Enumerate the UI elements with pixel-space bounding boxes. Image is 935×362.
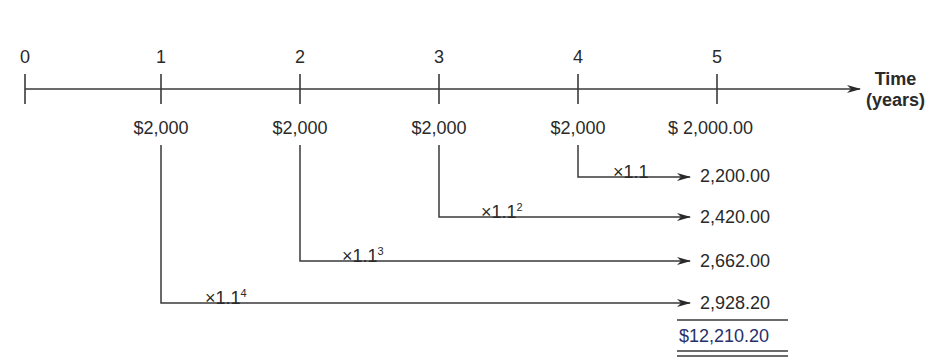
factor-exponent: 3 — [378, 245, 384, 257]
tick-label-1: 1 — [156, 47, 166, 67]
axis-title-line2: (years) — [866, 90, 925, 111]
factor-period-4: ×1.1 — [613, 157, 649, 182]
total-future-value: $12,210.20 — [679, 326, 769, 346]
cash-flow-1: $2,000 — [133, 118, 188, 138]
timeline-diagram — [0, 0, 935, 362]
factor-period-3: ×1.12 — [481, 197, 523, 222]
axis-title-line1: Time — [866, 69, 925, 90]
connector-period-3 — [439, 145, 690, 217]
cash-flow-2: $2,000 — [272, 118, 327, 138]
factor-period-2: ×1.13 — [342, 241, 384, 266]
factor-period-1: ×1.14 — [205, 283, 247, 308]
tick-label-0: 0 — [20, 47, 30, 67]
factor-text: ×1.1 — [205, 288, 241, 308]
tick-label-5: 5 — [712, 47, 722, 67]
future-value-period-3: 2,420.00 — [700, 207, 770, 227]
future-value-period-2: 2,662.00 — [700, 251, 770, 271]
cash-flow-5: $ 2,000.00 — [668, 118, 753, 138]
tick-label-3: 3 — [434, 47, 444, 67]
tick-label-4: 4 — [573, 47, 583, 67]
factor-exponent: 4 — [241, 287, 247, 299]
factor-text: ×1.1 — [481, 202, 517, 222]
factor-exponent: 2 — [517, 201, 523, 213]
cash-flow-4: $2,000 — [550, 118, 605, 138]
factor-text: ×1.1 — [613, 162, 649, 182]
future-value-period-4: 2,200.00 — [700, 166, 770, 186]
connector-period-1 — [161, 145, 690, 303]
factor-text: ×1.1 — [342, 246, 378, 266]
axis-title: Time (years) — [866, 69, 925, 111]
future-value-period-1: 2,928.20 — [700, 293, 770, 313]
cash-flow-3: $2,000 — [411, 118, 466, 138]
tick-label-2: 2 — [295, 47, 305, 67]
